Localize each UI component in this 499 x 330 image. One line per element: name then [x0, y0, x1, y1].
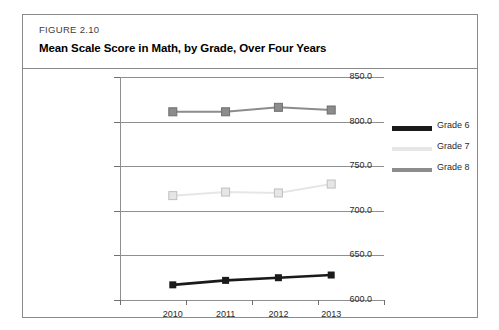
x-axis-tick: [384, 300, 385, 305]
x-axis-tick-label: 2010: [163, 309, 183, 319]
x-axis-tick-label: 2012: [268, 309, 288, 319]
data-series-layer: [120, 77, 384, 301]
series-line: [173, 275, 331, 285]
x-axis-tick-label: 2011: [216, 309, 235, 319]
data-point-marker: [222, 108, 230, 116]
legend-item: Grade 6: [392, 118, 476, 139]
data-point-marker: [327, 106, 335, 114]
figure-title: Mean Scale Score in Math, by Grade, Over…: [39, 42, 326, 54]
legend-swatch: [392, 147, 432, 151]
legend-item: Grade 8: [392, 160, 476, 181]
data-point-marker: [169, 108, 177, 116]
series-grade-8: [169, 103, 335, 115]
legend-label: Grade 8: [437, 162, 470, 172]
data-point-marker: [222, 188, 230, 196]
series-grade-6: [169, 272, 334, 289]
data-point-marker: [275, 274, 282, 281]
legend-item: Grade 7: [392, 139, 476, 160]
series-line: [173, 107, 331, 111]
chart-area: 600.0650.0700.0750.0800.0850.0 201020112…: [23, 69, 479, 318]
chart-legend: Grade 6Grade 7Grade 8: [392, 118, 476, 181]
series-line: [173, 184, 331, 196]
data-point-marker: [328, 272, 335, 279]
figure-header: FIGURE 2.10 Mean Scale Score in Math, by…: [23, 15, 477, 69]
x-axis-tick-label: 2013: [321, 309, 341, 319]
legend-label: Grade 6: [437, 120, 470, 130]
legend-swatch: [392, 168, 432, 172]
data-point-marker: [327, 180, 335, 188]
figure-number: FIGURE 2.10: [39, 24, 99, 35]
series-grade-7: [169, 180, 335, 200]
data-point-marker: [169, 281, 176, 288]
plot-area: 600.0650.0700.0750.0800.0850.0 201020112…: [120, 77, 384, 300]
figure-container: FIGURE 2.10 Mean Scale Score in Math, by…: [22, 14, 478, 318]
data-point-marker: [274, 103, 282, 111]
legend-swatch: [392, 126, 432, 131]
legend-label: Grade 7: [437, 141, 470, 151]
data-point-marker: [222, 277, 229, 284]
data-point-marker: [169, 192, 177, 200]
data-point-marker: [274, 189, 282, 197]
